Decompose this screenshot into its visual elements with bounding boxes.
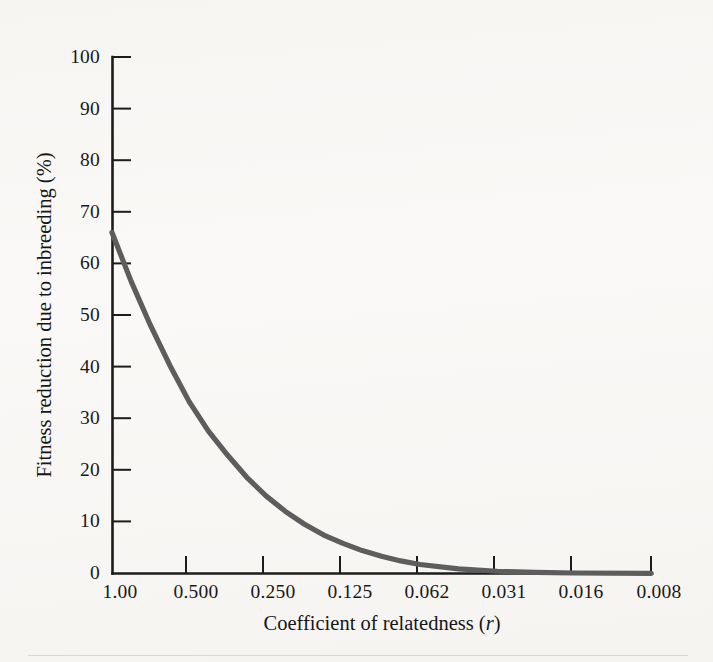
bottom-divider (28, 655, 688, 656)
y-tick-marks (113, 57, 132, 521)
x-tick-label: 0.008 (637, 581, 682, 603)
x-axis-title-symbol: r (486, 612, 494, 634)
y-tick-label: 90 (45, 98, 100, 120)
x-tick-label: 0.031 (482, 581, 527, 603)
figure-panel: 100 90 80 70 60 50 40 30 20 10 0 1.00 0.… (0, 0, 713, 662)
x-axis-title: Coefficient of relatedness (r) (112, 612, 652, 635)
x-tick-label: 0.016 (559, 581, 604, 603)
x-tick-label: 0.250 (251, 581, 296, 603)
y-tick-label: 100 (45, 46, 100, 68)
y-tick-label: 10 (45, 510, 100, 532)
x-tick-label: 1.00 (103, 581, 138, 603)
y-tick-label: 0 (45, 562, 100, 584)
x-axis-title-text: Coefficient of relatedness (263, 612, 473, 634)
x-tick-label: 0.500 (174, 581, 219, 603)
y-axis-title: Fitness reduction due to inbreeding (%) (33, 152, 56, 477)
x-tick-label: 0.062 (405, 581, 450, 603)
fitness-decay-curve (112, 233, 651, 574)
x-tick-label: 0.125 (328, 581, 373, 603)
plot-canvas (0, 0, 713, 662)
